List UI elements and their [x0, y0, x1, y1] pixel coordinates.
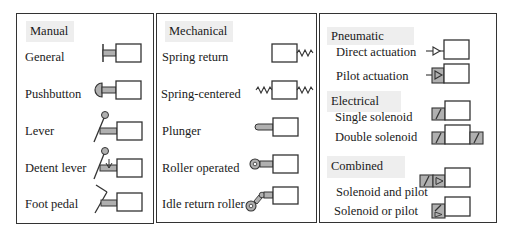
solenoid-or-pilot-icon: [431, 196, 476, 220]
roller-operated-icon: [248, 153, 303, 175]
pilot-actuation-icon: [425, 62, 475, 86]
heading-combined: Combined: [327, 156, 405, 178]
foot-pedal-icon: [92, 183, 147, 215]
label-lever: Lever: [25, 124, 54, 138]
double-solenoid-icon: [431, 124, 491, 146]
label-single-solenoid: Single solenoid: [335, 110, 412, 124]
label-pushbutton: Pushbutton: [25, 87, 81, 101]
lever-icon: [92, 110, 147, 144]
label-solenoid-or-pilot: Solenoid or pilot: [334, 204, 418, 218]
spring-centered-icon: [254, 79, 316, 101]
label-pilot-actuation: Pilot actuation: [336, 69, 409, 83]
label-detent-lever: Detent lever: [25, 161, 86, 175]
label-double-solenoid: Double solenoid: [335, 130, 417, 144]
single-solenoid-icon: [431, 100, 476, 122]
label-spring-centered: Spring-centered: [161, 87, 241, 101]
solenoid-and-pilot-icon: [419, 166, 479, 190]
label-roller-operated: Roller operated: [162, 161, 239, 175]
idle-return-roller-icon: [243, 186, 303, 214]
pushbutton-icon: [95, 79, 145, 101]
label-foot-pedal: Foot pedal: [25, 197, 78, 211]
spring-return-icon: [271, 42, 316, 64]
heading-manual: Manual: [26, 21, 74, 42]
plunger-icon: [253, 116, 303, 138]
general-manual-icon: [100, 42, 145, 64]
heading-mechanical: Mechanical: [165, 21, 233, 42]
detent-lever-icon: [92, 145, 147, 181]
label-general: General: [25, 50, 65, 64]
label-spring-return: Spring return: [162, 50, 228, 64]
label-idle-return-roller: Idle return roller: [162, 197, 245, 211]
label-direct-actuation: Direct actuation: [336, 45, 416, 59]
label-solenoid-and-pilot: Solenoid and pilot: [336, 185, 428, 199]
direct-actuation-icon: [425, 38, 475, 60]
heading-electrical: Electrical: [327, 91, 401, 112]
heading-pneumatic: Pneumatic: [327, 27, 414, 45]
label-plunger: Plunger: [162, 124, 201, 138]
